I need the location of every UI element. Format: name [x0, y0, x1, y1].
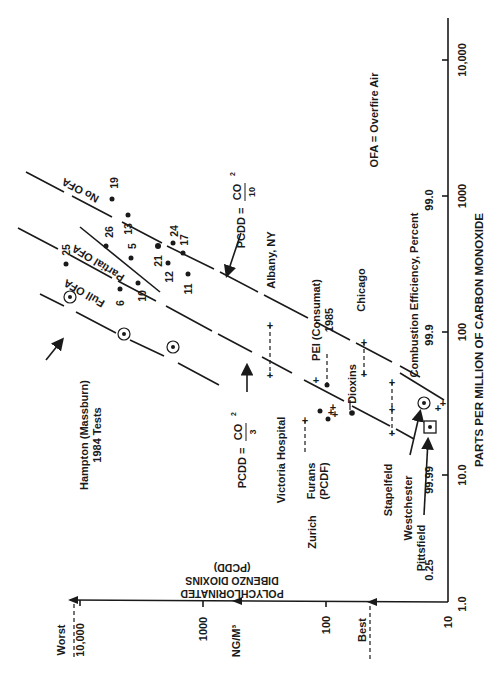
- ce-999: 99.9: [423, 324, 435, 345]
- svg-text:+: +: [328, 406, 334, 418]
- label-hampton: Hampton (Massburn) 1984 Tests: [78, 380, 103, 490]
- svg-text:3: 3: [248, 429, 258, 434]
- svg-text:19: 19: [108, 177, 120, 189]
- svg-text:11: 11: [182, 283, 194, 294]
- svg-text:+: +: [267, 319, 273, 331]
- svg-text:+: +: [389, 376, 395, 388]
- legend-ofa-note: OFA = Overfire Air: [368, 72, 380, 168]
- svg-text:17: 17: [178, 234, 190, 246]
- svg-text:POLYCHLORINATED: POLYCHLORINATED: [180, 588, 284, 600]
- y-tick-100: 100: [320, 616, 332, 634]
- x-axis-title: PARTS PER MILLION OF CARBON MONOXIDE: [473, 213, 485, 467]
- y-tick-labels: 10,000 1000 100 10: [74, 616, 454, 657]
- y-unit-label: NG/M³: [230, 624, 242, 657]
- x-axis-ticks: [442, 60, 448, 475]
- svg-text:+: +: [361, 336, 367, 348]
- x-tick-100: 100: [456, 323, 468, 341]
- svg-text:10: 10: [136, 290, 148, 302]
- svg-text:+: +: [302, 414, 308, 426]
- y-axis-title: POLYCHLORINATED DIBENZO DIOXINS (PCDD): [180, 562, 284, 600]
- label-zurich: Zurich: [306, 515, 318, 549]
- y-tick-10: 10: [442, 616, 454, 628]
- svg-text:21: 21: [152, 255, 164, 267]
- label-dioxins: Dioxins: [346, 364, 358, 404]
- label-full-ofa: Full OFA: [61, 277, 106, 310]
- label-albany: Albany, NY: [265, 231, 277, 289]
- svg-text:Furans: Furans: [305, 463, 317, 500]
- label-furans: Furans (PCDF): [305, 462, 330, 500]
- line-ce-9999: [400, 373, 444, 400]
- svg-text:13: 13: [122, 223, 134, 235]
- svg-text:25: 25: [60, 244, 72, 256]
- svg-text:6: 6: [114, 300, 126, 306]
- westchester-point: [418, 397, 430, 409]
- svg-text:1985: 1985: [323, 308, 335, 332]
- pittsfield-point: [424, 421, 436, 433]
- label-stapelfeld: Stapelfeld: [382, 464, 394, 517]
- arrow-co10: [227, 233, 241, 275]
- svg-text:2: 2: [229, 172, 236, 176]
- line-hampton: [40, 294, 219, 385]
- svg-text:5: 5: [126, 243, 138, 249]
- x-tick-10: 10.0: [456, 464, 468, 485]
- svg-text:26: 26: [103, 226, 115, 238]
- svg-text:PEI (Consumat): PEI (Consumat): [310, 279, 322, 361]
- ce-9999: 99.99: [423, 466, 435, 494]
- svg-text:CO: CO: [231, 183, 243, 200]
- svg-text:PCDD =: PCDD =: [235, 208, 247, 249]
- x-tick-labels: 1.0 10.0 100 1000 10,000: [456, 43, 468, 611]
- svg-text:PCDD =: PCDD =: [236, 448, 248, 489]
- x-tick-1: 1.0: [456, 596, 468, 611]
- label-victoria: Victoria Hospital: [275, 417, 287, 504]
- svg-text:(PCDF): (PCDF): [318, 462, 330, 500]
- chart: 1.0 10.0 100 1000 10,000 PARTS PER MILLI…: [0, 0, 496, 676]
- y-tick-10000: 10,000: [74, 623, 86, 657]
- svg-text:DIBENZO DIOXINS: DIBENZO DIOXINS: [185, 575, 278, 587]
- x-tick-10000: 10,000: [456, 43, 468, 77]
- worst-label: Worst: [55, 624, 67, 655]
- svg-text:2: 2: [230, 412, 237, 416]
- label-partial-ofa: Partial OFA: [70, 243, 127, 285]
- svg-text:(PCDD): (PCDD): [214, 562, 251, 574]
- x-tick-1000: 1000: [456, 184, 468, 208]
- formula-co3: PCDD = CO 3 2: [230, 412, 258, 488]
- y-tick-1000: 1000: [197, 617, 209, 641]
- ce-025: 0.25: [423, 559, 435, 580]
- svg-text:CO: CO: [232, 423, 244, 440]
- svg-text:12: 12: [163, 271, 175, 283]
- arrow-westchester: [410, 412, 420, 455]
- svg-text:+: +: [267, 369, 273, 381]
- svg-text:+: +: [389, 403, 395, 415]
- best-label: Best: [356, 618, 368, 642]
- ce-990: 99.0: [423, 189, 435, 210]
- label-ce: Combustion Efficiency, Percent: [408, 212, 420, 377]
- svg-text:1984 Tests: 1984 Tests: [91, 407, 103, 462]
- svg-text:Hampton (Massburn): Hampton (Massburn): [78, 380, 90, 490]
- label-westchester: Westchester: [402, 475, 414, 541]
- svg-text:+: +: [361, 368, 367, 380]
- svg-text:+: +: [313, 374, 319, 386]
- svg-text:+: +: [389, 427, 395, 439]
- formula-co10: PCDD = CO 10 2: [229, 172, 257, 248]
- svg-text:10: 10: [247, 187, 257, 197]
- label-pei: PEI (Consumat) 1985: [310, 279, 335, 361]
- label-chicago: Chicago: [355, 268, 367, 312]
- arrow-hampton: [46, 340, 62, 360]
